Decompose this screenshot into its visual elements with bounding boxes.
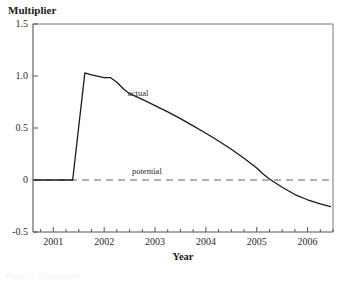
x-tick-label: 2005 xyxy=(247,236,267,247)
y-tick-label: 1.5 xyxy=(16,18,29,29)
potential-series-label: potential xyxy=(132,166,162,176)
x-tick-label: 2002 xyxy=(94,236,114,247)
actual-series-label: actual xyxy=(128,88,149,98)
y-axis-title: Multiplier xyxy=(8,4,56,16)
x-tick-label: 2001 xyxy=(43,236,63,247)
y-tick-label: -0.5 xyxy=(12,226,28,237)
x-tick-label: 2006 xyxy=(298,236,318,247)
y-tick-label: 0.5 xyxy=(16,122,29,133)
caption-fragment: Figure 1. (Continued) xyxy=(6,272,80,281)
y-tick-label: 1.0 xyxy=(16,70,29,81)
y-tick-label: 0 xyxy=(23,174,28,185)
x-tick-label: 2003 xyxy=(145,236,165,247)
x-tick-label: 2004 xyxy=(196,236,216,247)
multiplier-chart: Multiplier 1.51.00.50-0.5 20012002200320… xyxy=(0,0,345,286)
x-axis-title: Year xyxy=(173,251,194,262)
